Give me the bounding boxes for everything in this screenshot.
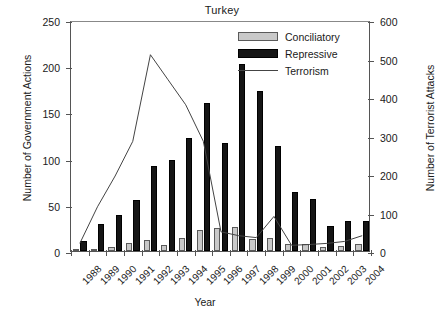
y-tick-label-left: 150 bbox=[16, 109, 60, 120]
x-tick-label: 2003 bbox=[345, 263, 369, 287]
x-axis-title: Year bbox=[70, 296, 340, 308]
y-tick-label-left: 50 bbox=[16, 202, 60, 213]
y-tick-label-right: 200 bbox=[380, 171, 424, 182]
y-axis-left-title: Number of Government Actions bbox=[21, 28, 33, 228]
chart-figure: Turkey Number of Government Actions Numb… bbox=[0, 0, 444, 319]
chart-title: Turkey bbox=[0, 4, 444, 16]
y-tick-label-left: 250 bbox=[16, 17, 60, 28]
legend-swatch-icon bbox=[238, 32, 278, 41]
y-tick-label-right: 100 bbox=[380, 210, 424, 221]
x-tick bbox=[371, 250, 372, 256]
legend-swatch-icon bbox=[238, 49, 278, 58]
legend-item[interactable]: Repressive bbox=[238, 46, 340, 61]
y-tick-label-right: 0 bbox=[380, 248, 424, 259]
y-tick-label-left: 200 bbox=[16, 63, 60, 74]
y-tick-label-right: 300 bbox=[380, 133, 424, 144]
legend-label: Repressive bbox=[285, 48, 338, 60]
y-tick-label-left: 0 bbox=[16, 248, 60, 259]
y-tick-label-right: 600 bbox=[380, 17, 424, 28]
chart-legend: ConciliatoryRepressiveTerrorism bbox=[238, 29, 340, 80]
x-tick-label: 2000 bbox=[292, 263, 316, 287]
y-tick-label-right: 500 bbox=[380, 56, 424, 67]
legend-item[interactable]: Terrorism bbox=[238, 63, 340, 78]
y-tick-label-right: 400 bbox=[380, 94, 424, 105]
legend-item[interactable]: Conciliatory bbox=[238, 29, 340, 44]
legend-label: Terrorism bbox=[285, 65, 329, 77]
x-tick-label: 1997 bbox=[239, 263, 263, 287]
y-axis-right-title: Number of Terrorist Attacks bbox=[424, 28, 436, 228]
legend-label: Conciliatory bbox=[285, 31, 340, 43]
x-tick-label: 2004 bbox=[363, 263, 387, 287]
y-tick-label-left: 100 bbox=[16, 156, 60, 167]
legend-swatch-icon bbox=[238, 66, 278, 75]
